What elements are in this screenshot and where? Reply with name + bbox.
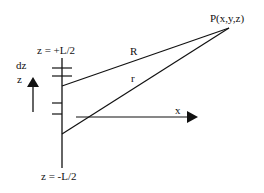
label-distance-R: R bbox=[130, 45, 138, 57]
label-z-axis: z bbox=[17, 73, 22, 85]
label-point-P: P(x,y,z) bbox=[210, 12, 244, 25]
distance-line-R bbox=[62, 28, 229, 86]
line-source-diagram: z = +L/2 dz z R r x P(x,y,z) z = -L/2 bbox=[0, 0, 264, 193]
label-element-dz: dz bbox=[16, 59, 27, 71]
distance-line-r bbox=[62, 28, 229, 134]
label-top-end: z = +L/2 bbox=[37, 44, 75, 56]
z-direction-arrowhead-icon bbox=[27, 77, 39, 87]
label-x-axis: x bbox=[175, 104, 181, 116]
x-axis-arrowhead-icon bbox=[187, 111, 198, 123]
label-bottom-end: z = -L/2 bbox=[41, 170, 77, 182]
label-distance-r: r bbox=[131, 72, 135, 84]
